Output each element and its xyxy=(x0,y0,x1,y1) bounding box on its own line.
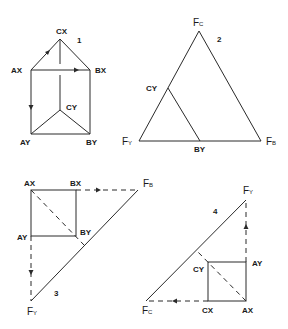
label-ax: AX xyxy=(242,306,254,315)
label-fy: FY xyxy=(122,136,132,147)
figure-2: FC 2 CY FY BY FB xyxy=(122,17,276,154)
figure-number: 1 xyxy=(77,36,82,45)
label-bx: BX xyxy=(70,179,82,188)
label-ax: AX xyxy=(24,179,36,188)
label-cy: CY xyxy=(193,265,205,274)
arrow-icon xyxy=(96,188,101,193)
edge-ax-cx xyxy=(31,39,60,70)
edge-cy-by xyxy=(168,88,200,141)
label-cy: CY xyxy=(146,84,158,93)
figure-4: FY 4 AY CY CX AX FC xyxy=(142,185,263,316)
label-fc: FC xyxy=(193,17,204,28)
figure-3: AX BX FB AY BY 3 FY xyxy=(17,178,153,317)
arrow-icon xyxy=(29,270,34,275)
label-cy: CY xyxy=(66,103,78,112)
label-by: BY xyxy=(194,145,206,154)
arrow-icon xyxy=(172,299,177,304)
label-fb: FB xyxy=(143,178,153,189)
arrow-icon xyxy=(244,224,249,229)
edge-fc-fb xyxy=(199,31,261,141)
label-ay: AY xyxy=(252,259,263,268)
arrow-icon xyxy=(74,68,79,73)
label-cx: CX xyxy=(56,27,68,36)
label-ay: AY xyxy=(20,138,31,147)
edge-cy-by xyxy=(60,110,90,134)
label-fy: FY xyxy=(27,306,37,317)
label-fb: FB xyxy=(266,136,276,147)
label-bx: BX xyxy=(95,66,107,75)
arrow-icon xyxy=(29,105,34,110)
figure-number: 2 xyxy=(217,35,222,44)
label-ax: AX xyxy=(11,66,23,75)
label-cx: CX xyxy=(202,306,214,315)
dashed-ax-cy xyxy=(196,250,246,301)
label-fc: FC xyxy=(142,305,153,316)
edge-ay-cy xyxy=(31,110,60,134)
label-fy: FY xyxy=(243,185,253,196)
label-by: BY xyxy=(80,228,92,237)
label-by: BY xyxy=(86,138,98,147)
diagram-canvas: CX 1 AX BX CY AY BY FC 2 CY FY BY FB AX … xyxy=(0,0,288,329)
label-ay: AY xyxy=(17,233,28,242)
figure-number: 4 xyxy=(213,207,218,216)
edge-cx-bx xyxy=(60,39,90,70)
figure-1: CX 1 AX BX CY AY BY xyxy=(11,27,107,147)
figure-number: 3 xyxy=(54,289,59,298)
edge-fy-fb xyxy=(31,190,138,301)
